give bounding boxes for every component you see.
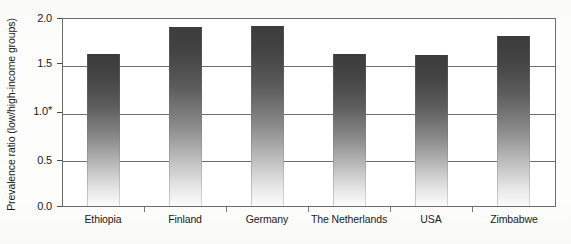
x-tick-mark-5 [472,207,473,212]
gridline-0-5 [63,161,555,162]
x-tick-mark-1 [144,207,145,212]
bar-usa [415,55,448,206]
y-tick-label-0-5: 0.5 [16,155,52,166]
x-tick-label-finland: Finland [144,213,226,226]
y-tick-label-2-0: 2.0 [16,13,52,24]
plot-area [62,18,556,207]
bar-the-netherlands [333,54,366,206]
x-tick-label-the-netherlands: The Netherlands [308,213,390,226]
x-axis-line [62,206,556,207]
x-tick-mark-3 [308,207,309,212]
x-tick-label-germany: Germany [226,213,308,226]
gridline-1-0 [63,114,555,115]
bar-ethiopia [87,54,120,206]
bar-chart-figure: Prevalence ratio (low/high-income groups… [0,0,571,244]
y-tick-label-1-5: 1.5 [16,58,52,69]
gridline-1-5 [63,66,555,67]
x-tick-mark-4 [390,207,391,212]
x-tick-label-zimbabwe: Zimbabwe [472,213,556,226]
bar-germany [251,26,284,206]
x-tick-label-ethiopia: Ethiopia [62,213,144,226]
y-tick-label-1-0: 1.0* [16,106,52,117]
x-tick-mark-2 [226,207,227,212]
y-tick-label-0-0: 0.0 [16,201,52,212]
bar-zimbabwe [497,36,530,206]
bar-finland [169,27,202,206]
x-tick-label-usa: USA [390,213,472,226]
